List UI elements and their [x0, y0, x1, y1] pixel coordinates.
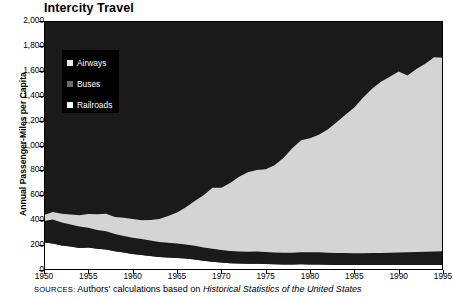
legend-label: Airways	[77, 59, 106, 68]
legend-swatch-icon	[67, 81, 73, 87]
chart-figure: Intercity Travel Annual Passenger-Miles …	[0, 0, 453, 298]
legend-item-airways[interactable]: Airways	[67, 57, 106, 69]
source-text: Authors' calculations based on	[75, 284, 203, 294]
x-tick-label: 1970	[201, 272, 241, 281]
x-tick-label: 1965	[157, 272, 197, 281]
legend-swatch-icon	[67, 60, 73, 66]
x-tick-label: 1950	[24, 272, 64, 281]
x-tick-label: 1960	[113, 272, 153, 281]
x-tick-label: 1955	[68, 272, 108, 281]
source-note: SOURCES: Authors' calculations based on …	[34, 284, 446, 295]
x-axis: 1950195519601965197019751980198519901995	[0, 0, 453, 298]
legend-item-railroads[interactable]: Railroads	[67, 99, 112, 111]
legend-label: Buses	[77, 80, 100, 89]
source-title-italic: Historical Statistics of the United Stat…	[203, 284, 362, 294]
legend-item-buses[interactable]: Buses	[67, 78, 100, 90]
legend-label: Railroads	[77, 101, 112, 110]
x-tick-label: 1975	[246, 272, 286, 281]
source-label: SOURCES:	[34, 285, 75, 294]
x-tick-label: 1985	[334, 272, 374, 281]
legend-swatch-icon	[67, 102, 73, 108]
chart-legend: AirwaysBusesRailroads	[62, 50, 119, 113]
x-tick-label: 1980	[290, 272, 330, 281]
x-tick-label: 1990	[379, 272, 419, 281]
x-tick-label: 1995	[423, 272, 453, 281]
